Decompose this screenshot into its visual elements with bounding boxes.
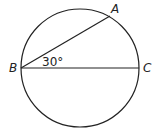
- label-a: A: [110, 2, 119, 16]
- circle-diagram: A B C 30°: [0, 0, 160, 137]
- chord-ba: [21, 16, 110, 68]
- label-b: B: [9, 61, 17, 75]
- label-c: C: [143, 61, 152, 75]
- angle-label: 30°: [42, 55, 63, 69]
